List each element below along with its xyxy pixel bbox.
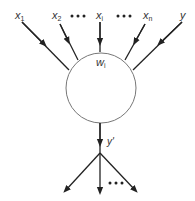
neuron-diagram: x1 x2 xi xn y wi y' bbox=[0, 0, 195, 201]
label-y-prime: y' bbox=[106, 136, 115, 147]
output-branch-right bbox=[100, 153, 135, 190]
label-xi: xi bbox=[95, 9, 104, 22]
label-x1: x1 bbox=[14, 9, 25, 22]
label-xn: xn bbox=[142, 9, 153, 22]
output-branch-left bbox=[66, 153, 100, 190]
label-x2: x2 bbox=[51, 9, 62, 22]
ellipsis-dots-bottom bbox=[109, 182, 124, 185]
label-y: y bbox=[179, 9, 187, 21]
